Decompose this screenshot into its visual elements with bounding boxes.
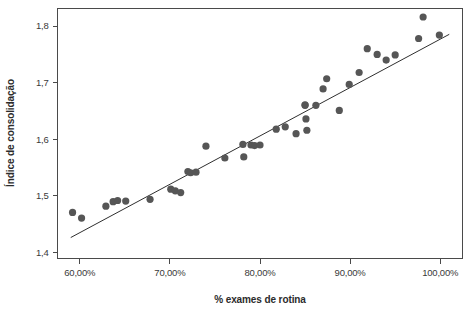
data-point: [319, 85, 326, 92]
plot-canvas: 1,41,51,61,71,8 60,00%70,00%80,00%90,00%…: [0, 0, 473, 313]
data-point: [303, 127, 310, 134]
data-point: [122, 197, 129, 204]
data-point: [383, 56, 390, 63]
data-point: [202, 143, 209, 150]
data-point: [436, 32, 443, 39]
data-point: [192, 169, 199, 176]
x-tick-label: 100,00%: [422, 267, 459, 278]
data-point: [302, 115, 309, 122]
data-point: [282, 123, 289, 130]
data-point: [69, 209, 76, 216]
data-point: [364, 45, 371, 52]
data-point: [301, 102, 308, 109]
x-tick-label: 90,00%: [335, 267, 367, 278]
x-tick-label: 60,00%: [64, 267, 96, 278]
data-point: [374, 51, 381, 58]
data-point: [292, 130, 299, 137]
data-point: [312, 102, 319, 109]
data-point: [221, 154, 228, 161]
data-point: [256, 141, 263, 148]
y-tick-label: 1,6: [36, 134, 49, 145]
scatter-chart: 1,41,51,61,71,8 60,00%70,00%80,00%90,00%…: [0, 0, 473, 313]
data-point: [177, 189, 184, 196]
y-tick-label: 1,7: [36, 77, 49, 88]
y-tick-label: 1,5: [36, 190, 49, 201]
data-point: [273, 126, 280, 133]
data-point: [346, 81, 353, 88]
data-point: [356, 69, 363, 76]
y-tick-label: 1,4: [36, 247, 49, 258]
x-tick-label: 80,00%: [244, 267, 276, 278]
x-axis-title: % exames de rotina: [214, 294, 306, 305]
data-point: [392, 51, 399, 58]
x-tick-label: 70,00%: [154, 267, 186, 278]
data-point: [146, 196, 153, 203]
data-point: [420, 13, 427, 20]
data-point: [336, 107, 343, 114]
data-point: [78, 214, 85, 221]
data-point: [114, 197, 121, 204]
y-tick-label: 1,8: [36, 20, 49, 31]
data-point: [239, 141, 246, 148]
y-axis-title: Índice de consolidação: [4, 79, 16, 187]
data-point: [323, 75, 330, 82]
data-point: [240, 153, 247, 160]
data-point: [415, 35, 422, 42]
data-point: [102, 203, 109, 210]
